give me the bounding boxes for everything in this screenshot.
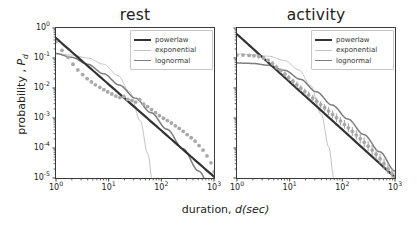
- data-point: [106, 90, 110, 94]
- data-point: [134, 100, 138, 104]
- x-tick-label: 101: [94, 182, 124, 193]
- data-point: [358, 137, 362, 141]
- data-point: [173, 124, 177, 128]
- x-tick-label: 100: [41, 182, 71, 193]
- data-point: [247, 54, 251, 58]
- y-axis-label: probability , Pd: [15, 20, 28, 170]
- data-point: [331, 112, 335, 116]
- data-point: [209, 161, 213, 165]
- data-point: [307, 93, 311, 97]
- data-point: [185, 133, 189, 137]
- data-point: [390, 172, 394, 176]
- data-point: [193, 139, 197, 143]
- x-tick-label: 103: [380, 182, 410, 193]
- x-tick-label: 100: [222, 182, 252, 193]
- data-point: [126, 97, 130, 101]
- data-point: [181, 129, 185, 133]
- data-point: [252, 54, 256, 58]
- legend-entry: exponential: [134, 45, 208, 55]
- data-point: [102, 88, 106, 92]
- data-point: [118, 96, 122, 100]
- y-axis-label-symbol: P: [15, 59, 28, 66]
- data-point: [350, 129, 354, 133]
- x-axis-label-prefix: duration,: [182, 203, 235, 216]
- data-point: [212, 170, 214, 174]
- data-point: [138, 98, 142, 102]
- data-point: [382, 162, 386, 166]
- legend-entry: powerlaw: [134, 35, 208, 45]
- y-axis-label-prefix: probability ,: [15, 66, 28, 135]
- data-point: [197, 144, 201, 148]
- scatter-series: [237, 53, 395, 178]
- legend-activity: powerlawexponentiallognormal: [311, 30, 394, 70]
- legend-label: lognormal: [336, 57, 371, 65]
- fit-curve-lognormal: [56, 54, 214, 178]
- data-point: [142, 102, 146, 106]
- data-point: [85, 77, 89, 81]
- fit-curve-exponential: [56, 54, 158, 178]
- data-point: [60, 48, 64, 52]
- legend-swatch-lognormal: [134, 60, 151, 61]
- legend-swatch-powerlaw: [134, 39, 151, 41]
- figure-root: rest activity 10010-110-210-310-410-5 10…: [0, 0, 417, 227]
- data-point: [335, 116, 339, 120]
- legend-label: powerlaw: [336, 36, 370, 44]
- data-point: [275, 65, 279, 69]
- data-point: [177, 127, 181, 131]
- legend-label: exponential: [155, 46, 196, 54]
- data-point: [154, 111, 158, 115]
- data-point: [354, 133, 358, 137]
- legend-swatch-exponential: [134, 50, 151, 51]
- x-tick-label: 102: [146, 182, 176, 193]
- data-point: [189, 136, 193, 140]
- data-point: [110, 92, 114, 96]
- data-point: [165, 119, 169, 123]
- legend-entry: exponential: [315, 45, 389, 55]
- legend-entry: powerlaw: [315, 35, 389, 45]
- legend-rest: powerlawexponentiallognormal: [130, 30, 213, 70]
- data-point: [370, 148, 374, 152]
- x-tick-label: 101: [275, 182, 305, 193]
- data-point: [378, 157, 382, 161]
- data-point: [122, 95, 126, 99]
- data-point: [130, 99, 134, 103]
- legend-entry: lognormal: [134, 56, 208, 66]
- data-point: [323, 106, 327, 110]
- panel-title-activity: activity: [236, 5, 396, 25]
- data-point: [201, 148, 205, 152]
- data-point: [158, 114, 162, 118]
- x-tick-label: 102: [327, 182, 357, 193]
- data-point: [162, 116, 166, 120]
- data-point: [66, 55, 70, 59]
- data-point: [315, 99, 319, 103]
- data-point: [319, 103, 323, 107]
- legend-swatch-lognormal: [315, 60, 332, 61]
- y-axis-label-subscript: d: [21, 54, 30, 59]
- data-point: [169, 121, 173, 125]
- data-point: [374, 152, 378, 156]
- data-point: [386, 167, 390, 171]
- data-point: [257, 55, 261, 59]
- legend-swatch-powerlaw: [315, 39, 332, 41]
- data-point: [271, 62, 275, 66]
- data-point: [76, 68, 80, 72]
- legend-entry: lognormal: [315, 56, 389, 66]
- panel-title-rest: rest: [55, 5, 215, 25]
- data-point: [205, 154, 209, 158]
- legend-label: powerlaw: [155, 36, 189, 44]
- data-point: [339, 119, 343, 123]
- data-point: [327, 109, 331, 113]
- x-axis-label: duration, d(sec): [55, 203, 396, 216]
- data-point: [311, 96, 315, 100]
- data-point: [279, 69, 283, 73]
- data-point: [291, 79, 295, 83]
- data-point: [366, 144, 370, 148]
- data-point: [287, 76, 291, 80]
- data-point: [283, 72, 287, 76]
- data-point: [146, 105, 150, 109]
- legend-swatch-exponential: [315, 50, 332, 51]
- data-point: [262, 56, 266, 60]
- data-point: [266, 58, 270, 62]
- data-point: [98, 85, 102, 89]
- data-point: [303, 90, 307, 94]
